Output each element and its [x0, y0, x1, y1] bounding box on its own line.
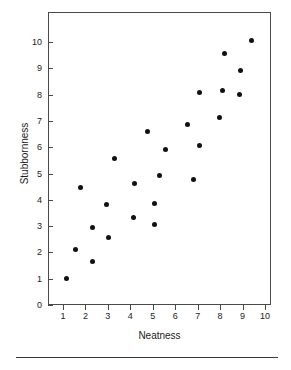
x-tick [198, 305, 199, 310]
x-tick [153, 305, 154, 310]
data-point [152, 222, 157, 227]
data-points-layer [49, 13, 270, 304]
data-point [197, 143, 202, 148]
data-point [217, 115, 222, 120]
data-point [220, 88, 225, 93]
data-point [163, 147, 168, 152]
y-tick [48, 147, 53, 148]
y-tick [48, 226, 53, 227]
data-point [132, 181, 137, 186]
plot-frame [48, 12, 271, 305]
x-tick [175, 305, 176, 310]
data-point [112, 156, 117, 161]
x-tick-label: 5 [143, 312, 163, 321]
x-tick-label: 8 [210, 312, 230, 321]
data-point [249, 38, 254, 43]
x-tick [220, 305, 221, 310]
data-point [64, 276, 69, 281]
x-tick-label: 4 [120, 312, 140, 321]
scatter-plot-figure: 012345678910 12345678910 Neatness Stubbo… [0, 0, 291, 370]
data-point [238, 68, 243, 73]
data-point [106, 235, 111, 240]
y-tick [48, 252, 53, 253]
y-tick-label: 1 [0, 275, 42, 284]
data-point [191, 177, 196, 182]
data-point [157, 173, 162, 178]
x-tick-label: 2 [75, 312, 95, 321]
x-tick-label: 10 [255, 312, 275, 321]
data-point [145, 129, 150, 134]
y-tick [48, 68, 53, 69]
x-tick-label: 6 [165, 312, 185, 321]
x-tick [130, 305, 131, 310]
y-tick [48, 121, 53, 122]
y-tick-label: 2 [0, 248, 42, 257]
y-tick-label: 9 [0, 64, 42, 73]
y-tick-label: 0 [0, 301, 42, 310]
y-tick-label: 10 [0, 38, 42, 47]
y-axis-title: Stubbornness [19, 84, 30, 224]
data-point [90, 225, 95, 230]
data-point [237, 92, 242, 97]
y-tick [48, 200, 53, 201]
x-tick-label: 7 [188, 312, 208, 321]
data-point [73, 247, 78, 252]
data-point [197, 90, 202, 95]
y-tick [48, 95, 53, 96]
x-tick-label: 9 [233, 312, 253, 321]
x-tick-label: 3 [98, 312, 118, 321]
data-point [90, 259, 95, 264]
y-tick [48, 174, 53, 175]
data-point [152, 201, 157, 206]
x-axis-title: Neatness [48, 330, 271, 341]
data-point [222, 51, 227, 56]
horizontal-rule [16, 357, 278, 358]
data-point [104, 202, 109, 207]
x-tick [243, 305, 244, 310]
x-tick [265, 305, 266, 310]
data-point [131, 215, 136, 220]
x-tick [85, 305, 86, 310]
x-tick-label: 1 [53, 312, 73, 321]
x-tick [63, 305, 64, 310]
y-tick [48, 279, 53, 280]
data-point [78, 185, 83, 190]
x-tick [108, 305, 109, 310]
data-point [185, 122, 190, 127]
y-tick [48, 42, 53, 43]
y-tick [48, 305, 53, 306]
